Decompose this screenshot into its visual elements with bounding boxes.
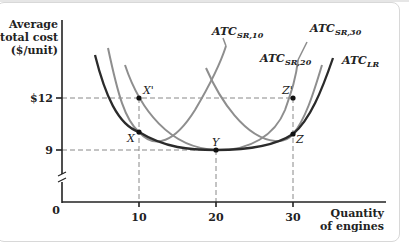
x-tick-label-0: 0 [52, 204, 60, 217]
axes [56, 20, 386, 207]
x-tick-label-10: 10 [131, 211, 147, 224]
curve-atc-sr10 [108, 46, 226, 141]
point-x [136, 129, 141, 134]
point-x-prime [136, 95, 141, 100]
point-z [290, 131, 295, 136]
y-tick-label-9: 9 [45, 144, 53, 157]
label-atc-sr20: ATCSR,20 [259, 52, 312, 67]
label-atc-sr30: ATCSR,30 [309, 22, 362, 37]
label-atc-sr10: ATCSR,10 [211, 25, 264, 40]
label-z-prime: Z' [281, 84, 293, 97]
label-z: Z [295, 133, 304, 146]
curve-atc-sr30 [206, 65, 322, 141]
label-x: X [126, 132, 136, 145]
y-tick-label-12: $12 [30, 92, 53, 105]
reference-lines [62, 98, 293, 202]
x-tick-label-20: 20 [208, 211, 224, 224]
label-x-prime: X' [142, 84, 154, 97]
cost-curves-chart: $12 9 0 10 20 30 X' X Y Z' Z ATCSR,10 AT… [0, 0, 409, 246]
label-y: Y [212, 136, 221, 149]
x-tick-label-30: 30 [285, 211, 301, 224]
axis-break-icon [58, 172, 66, 182]
label-atc-lr: ATCLR [341, 54, 380, 69]
